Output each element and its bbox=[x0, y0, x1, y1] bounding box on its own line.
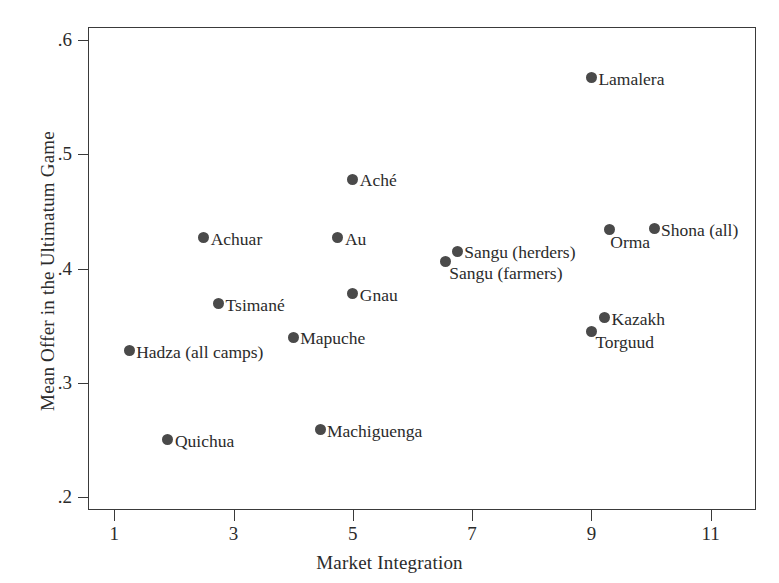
y-axis-tick bbox=[78, 269, 88, 270]
x-axis-tick-label: 5 bbox=[333, 524, 373, 543]
y-axis-tick bbox=[78, 497, 88, 498]
x-axis-title: Market Integration bbox=[0, 552, 779, 574]
data-point-label: Shona (all) bbox=[661, 222, 738, 240]
x-axis-tick-label: 7 bbox=[452, 524, 492, 543]
data-point-label: Torguud bbox=[595, 334, 654, 352]
x-axis-tick bbox=[234, 510, 235, 521]
data-point-label: Sangu (herders) bbox=[464, 244, 575, 262]
data-point-label: Hadza (all camps) bbox=[136, 344, 263, 362]
x-axis-tick bbox=[353, 510, 354, 521]
data-point-label: Gnau bbox=[360, 287, 398, 305]
data-point-marker bbox=[288, 332, 299, 343]
data-point-label: Achuar bbox=[211, 231, 263, 249]
x-axis-tick bbox=[114, 510, 115, 521]
data-point-label: Mapuche bbox=[300, 330, 365, 348]
data-point-marker bbox=[124, 345, 135, 356]
x-axis-tick-label: 11 bbox=[691, 524, 731, 543]
y-axis-tick bbox=[78, 383, 88, 384]
x-axis-tick-label: 3 bbox=[214, 524, 254, 543]
data-point-marker bbox=[649, 223, 660, 234]
data-point-label: Au bbox=[345, 231, 366, 249]
data-point-label: Sangu (farmers) bbox=[449, 265, 562, 283]
y-axis-tick bbox=[78, 40, 88, 41]
x-axis-tick-label: 9 bbox=[571, 524, 611, 543]
data-point-marker bbox=[315, 424, 326, 435]
data-point-label: Aché bbox=[360, 172, 397, 190]
data-point-marker bbox=[452, 246, 463, 257]
data-point-label: Orma bbox=[610, 234, 650, 252]
data-point-label: Lamalera bbox=[598, 71, 664, 89]
x-axis-tick bbox=[591, 510, 592, 521]
scatter-plot-figure: .2.3.4.5.6 1357911 Hadza (all camps)Quic… bbox=[0, 0, 779, 583]
x-axis-tick bbox=[472, 510, 473, 521]
data-point-label: Machiguenga bbox=[327, 423, 422, 441]
data-point-label: Kazakh bbox=[612, 311, 665, 329]
y-axis-title: Mean Offer in the Ultimatum Game bbox=[37, 31, 59, 511]
y-axis-tick bbox=[78, 154, 88, 155]
x-axis-tick-label: 1 bbox=[94, 524, 134, 543]
data-point-label: Quichua bbox=[175, 433, 234, 451]
data-point-label: Tsimané bbox=[226, 297, 285, 315]
x-axis-tick bbox=[711, 510, 712, 521]
